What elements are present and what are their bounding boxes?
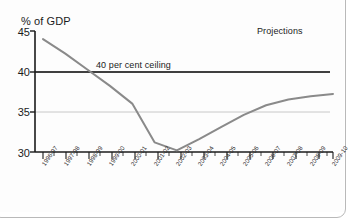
net-debt-line bbox=[43, 39, 333, 150]
ceiling-annotation: 40 per cent ceiling bbox=[96, 60, 171, 70]
projections-annotation: Projections bbox=[257, 26, 303, 36]
